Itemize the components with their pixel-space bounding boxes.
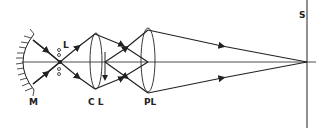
condenser-lens: C L xyxy=(88,33,104,107)
light-source: L xyxy=(58,40,70,76)
screen-label: S xyxy=(299,10,305,20)
optical-diagram: S M L xyxy=(0,0,328,128)
condenser-rays xyxy=(95,30,148,93)
projection-rays xyxy=(148,30,307,93)
mirror-label: M xyxy=(29,97,38,107)
projection-lens: PL xyxy=(141,28,157,107)
lamp-label: L xyxy=(63,40,69,50)
condenser-lens-label: C L xyxy=(88,97,104,107)
projection-lens-label: PL xyxy=(144,97,157,107)
screen: S xyxy=(299,0,307,128)
